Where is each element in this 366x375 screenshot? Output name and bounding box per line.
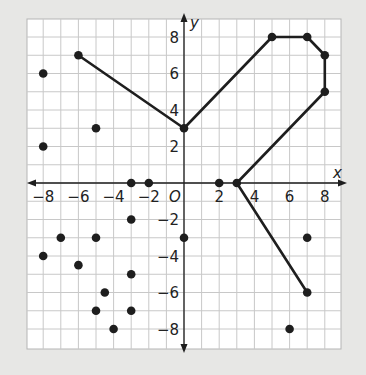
data-point bbox=[127, 306, 136, 315]
y-tick-label: −8 bbox=[157, 321, 179, 339]
data-point bbox=[92, 124, 101, 133]
data-point bbox=[215, 179, 224, 188]
data-point bbox=[92, 306, 101, 315]
y-tick-label: −2 bbox=[157, 211, 179, 229]
data-point bbox=[285, 325, 294, 334]
x-tick-label: 2 bbox=[214, 188, 224, 206]
y-tick-label: 2 bbox=[169, 138, 179, 156]
data-point bbox=[101, 288, 110, 297]
data-point bbox=[74, 261, 83, 270]
origin-label: O bbox=[169, 188, 181, 206]
data-point bbox=[321, 51, 330, 60]
y-tick-label: 8 bbox=[169, 29, 179, 47]
data-point bbox=[268, 33, 277, 42]
data-point bbox=[127, 179, 136, 188]
y-tick-label: −4 bbox=[157, 248, 179, 266]
x-tick-label: −4 bbox=[103, 188, 125, 206]
data-point bbox=[127, 270, 136, 279]
data-point bbox=[39, 142, 48, 151]
data-point bbox=[39, 252, 48, 261]
coordinate-plane: −8−6−4−22468−8−6−4−22468 x y O bbox=[0, 0, 366, 375]
x-tick-label: −2 bbox=[138, 188, 160, 206]
x-axis-label: x bbox=[332, 164, 342, 182]
x-tick-label: −8 bbox=[32, 188, 54, 206]
data-point bbox=[180, 233, 189, 242]
y-tick-label: 6 bbox=[169, 65, 179, 83]
data-point bbox=[74, 51, 83, 60]
x-tick-label: 8 bbox=[320, 188, 330, 206]
data-point bbox=[127, 215, 136, 224]
data-point bbox=[233, 179, 242, 188]
data-point bbox=[303, 288, 312, 297]
y-tick-label: 4 bbox=[169, 102, 179, 120]
data-point bbox=[303, 233, 312, 242]
data-point bbox=[180, 124, 189, 133]
data-point bbox=[303, 33, 312, 42]
data-point bbox=[321, 87, 330, 96]
y-axis-label: y bbox=[189, 14, 200, 32]
data-point bbox=[145, 179, 154, 188]
y-tick-label: −6 bbox=[157, 284, 179, 302]
data-point bbox=[39, 69, 48, 78]
x-tick-label: 6 bbox=[285, 188, 295, 206]
x-tick-label: −6 bbox=[67, 188, 89, 206]
data-point bbox=[109, 325, 118, 334]
data-point bbox=[57, 233, 66, 242]
data-point bbox=[92, 233, 101, 242]
